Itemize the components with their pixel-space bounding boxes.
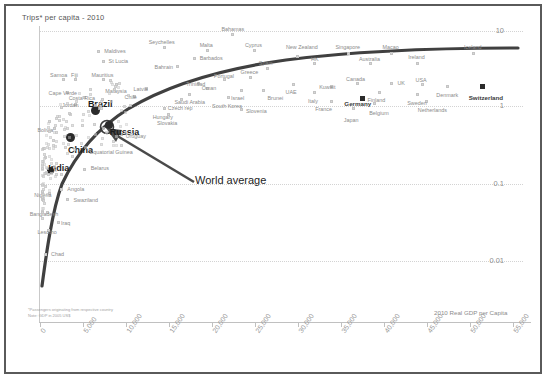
point-label-swaziland: Swaziland: [74, 197, 99, 203]
point-label-slovakia: Slovakia: [157, 120, 177, 126]
data-point-usa: [421, 83, 424, 86]
data-point-malta: [206, 49, 209, 52]
point-label-uae: UAE: [286, 89, 297, 95]
background-data-point: [54, 175, 57, 178]
data-point-barbados: [193, 57, 196, 60]
background-data-point: [125, 123, 128, 126]
data-point-belarus: [83, 168, 86, 171]
data-point-greece: [249, 76, 252, 79]
point-label-angola: Angola: [67, 186, 84, 192]
point-label-czech-rep: Czech rep: [168, 105, 193, 111]
point-label-new-zealand: New Zealand: [286, 44, 318, 50]
data-point-uae: [292, 83, 295, 86]
background-data-point: [65, 120, 68, 123]
point-label-germany: Germany: [344, 100, 371, 107]
point-label-kuwait: Kuwait: [319, 84, 335, 90]
background-data-point: [63, 128, 66, 131]
point-label-switzerland: Switzerland: [469, 94, 503, 101]
data-point-maldives: [97, 50, 100, 53]
background-data-point: [71, 155, 74, 158]
background-data-point: [41, 211, 44, 214]
point-label-uruguay: Uruguay: [126, 133, 146, 139]
data-point-spain: [266, 67, 269, 70]
data-point-bahrain: [176, 65, 179, 68]
background-data-point: [60, 173, 63, 176]
data-point-seychelles: [163, 46, 166, 49]
background-data-point: [108, 92, 111, 95]
point-label-maldives: Maldives: [104, 48, 125, 54]
point-label-belarus: Belarus: [91, 165, 109, 171]
point-label-latvia: Latvia: [133, 86, 147, 92]
background-data-point: [54, 124, 57, 127]
data-point-mauritius: [102, 78, 105, 81]
point-label-sweden: Sweden: [407, 100, 426, 106]
data-point-ireland: [416, 62, 419, 65]
background-data-point: [42, 207, 45, 210]
point-label-mauritius: Mauritius: [91, 72, 113, 78]
background-data-point: [120, 109, 123, 112]
point-label-oman: Oman: [202, 85, 217, 91]
point-label-chad: Chad: [51, 251, 64, 257]
point-label-singapore: Singapore: [335, 44, 360, 50]
data-point-hungary: [163, 107, 166, 110]
background-data-point: [64, 146, 67, 149]
background-data-point: [45, 134, 48, 137]
background-data-point: [130, 133, 133, 136]
point-label-malta: Malta: [200, 42, 213, 48]
background-data-point: [87, 136, 90, 139]
background-data-point: [82, 113, 85, 116]
background-data-point: [55, 140, 58, 143]
background-data-point: [118, 82, 121, 85]
background-data-point: [124, 131, 127, 134]
background-data-point: [49, 177, 52, 180]
background-data-point: [66, 102, 69, 105]
point-label-canada: Canada: [346, 76, 365, 82]
point-label-belgium: Belgium: [369, 110, 388, 116]
point-label-france: France: [315, 106, 332, 112]
data-point-brunei: [262, 89, 265, 92]
chart-footnote: *Passengers originating from respective …: [28, 307, 113, 319]
background-data-point: [73, 148, 76, 151]
background-data-point: [123, 105, 126, 108]
background-data-point: [117, 86, 120, 89]
data-point-fiji: [74, 78, 77, 81]
point-label-greece: Greece: [241, 69, 259, 75]
data-point-israel: [240, 89, 243, 92]
background-data-point: [66, 127, 69, 130]
background-data-point: [48, 189, 51, 192]
background-data-point: [110, 100, 113, 103]
background-data-point: [60, 106, 63, 109]
background-data-point: [93, 123, 96, 126]
background-data-point: [47, 173, 50, 176]
point-label-denmark: Denmark: [436, 92, 458, 98]
background-data-point: [102, 127, 105, 130]
background-data-point: [124, 111, 127, 114]
background-data-point: [68, 136, 71, 139]
point-label-australia: Australia: [359, 56, 380, 62]
point-label-iraq: Iraq: [61, 220, 70, 226]
footnote-line-1: *Passengers originating from respective …: [28, 307, 113, 313]
data-point-samoa: [62, 78, 65, 81]
point-label-brunei: Brunei: [268, 95, 284, 101]
background-data-point: [43, 153, 46, 156]
background-data-point: [67, 143, 70, 146]
point-label-lesotho: Lesotho: [37, 229, 56, 235]
data-point-denmark: [446, 85, 449, 88]
background-data-point: [52, 147, 55, 150]
point-label-macao: Macao: [382, 44, 398, 50]
background-data-point: [115, 135, 118, 138]
data-point-singapore: [347, 52, 350, 55]
world-average-annotation-label: World average: [195, 174, 266, 186]
data-point-hk: [313, 62, 316, 65]
background-data-point: [46, 193, 49, 196]
background-data-point: [66, 152, 69, 155]
data-point-australia: [369, 62, 372, 65]
background-data-point: [68, 112, 71, 115]
background-data-point: [89, 88, 92, 91]
background-data-point: [100, 100, 103, 103]
point-label-japan: Japan: [344, 117, 359, 123]
point-label-italy: Italy: [308, 98, 318, 104]
data-point-canada: [356, 82, 359, 85]
data-point-swaziland: [66, 198, 69, 201]
background-data-point: [113, 88, 116, 91]
